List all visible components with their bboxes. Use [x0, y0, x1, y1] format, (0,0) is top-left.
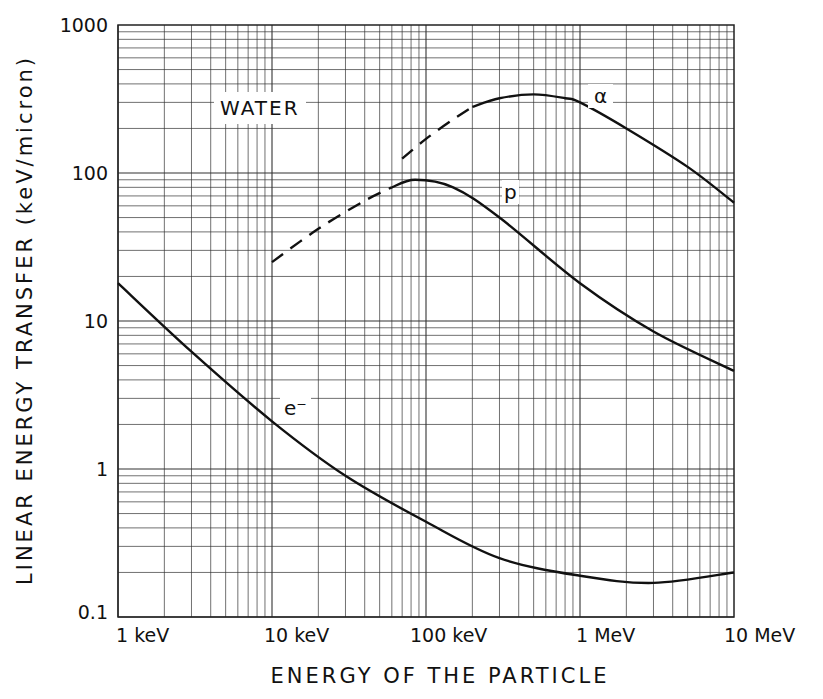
y-tick-1000: 1000 [60, 14, 108, 36]
y-axis-title: LINEAR ENERGY TRANSFER (keV/micron) [13, 55, 37, 585]
water-annotation: WATER [214, 92, 306, 124]
x-tick-10kev: 10 keV [264, 624, 329, 646]
y-tick-1: 1 [96, 458, 108, 480]
alpha-curve-label: α [588, 84, 613, 108]
p-curve-dashed [272, 187, 392, 262]
chart-plot-area [0, 0, 823, 699]
y-tick-0-1: 0.1 [78, 601, 108, 623]
y-tick-100: 100 [72, 162, 108, 184]
x-tick-10mev: 10 MeV [724, 624, 795, 646]
x-tick-1kev: 1 keV [116, 624, 169, 646]
y-tick-10: 10 [84, 310, 108, 332]
alpha-curve-dashed [402, 107, 472, 159]
grid-lines [118, 25, 734, 617]
x-tick-1mev: 1 MeV [576, 624, 635, 646]
x-tick-100kev: 100 keV [410, 624, 487, 646]
proton-curve-label: p [502, 180, 519, 204]
x-axis-title: ENERGY OF THE PARTICLE [271, 664, 610, 688]
electron-curve-label: e⁻ [280, 396, 311, 420]
p-curve [392, 180, 734, 371]
